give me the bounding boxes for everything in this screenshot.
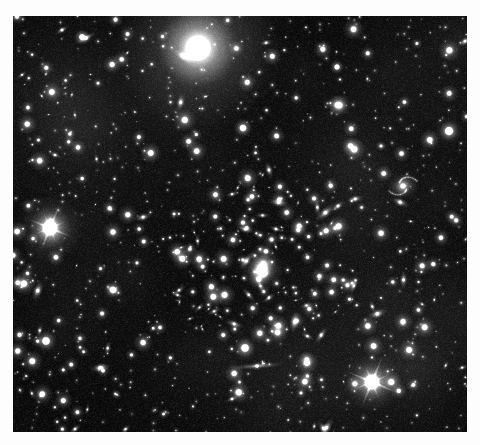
sky-image-frame [13, 16, 467, 432]
astronomy-image-page [0, 0, 480, 445]
star-field-canvas [13, 16, 467, 432]
